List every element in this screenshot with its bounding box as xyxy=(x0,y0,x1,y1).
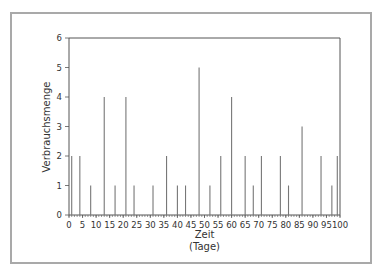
plot-axes xyxy=(69,38,340,215)
stem-chart: 0510152025303540455055606570758085909510… xyxy=(0,0,381,275)
x-tick-label: 25 xyxy=(131,220,142,230)
x-axis-unit-label: (Tage) xyxy=(189,241,220,252)
x-tick-label: 100 xyxy=(332,220,348,230)
x-tick-label: 75 xyxy=(267,220,278,230)
x-tick-label: 95 xyxy=(321,220,332,230)
x-tick-label: 40 xyxy=(172,220,183,230)
x-tick-label: 5 xyxy=(80,220,85,230)
x-tick-label: 60 xyxy=(226,220,237,230)
x-axis-label: Zeit xyxy=(195,229,215,240)
y-axis-ticks: 0123456 xyxy=(57,33,69,220)
y-tick-label: 0 xyxy=(57,210,62,220)
x-tick-label: 10 xyxy=(91,220,102,230)
y-tick-label: 1 xyxy=(57,181,62,191)
y-tick-label: 5 xyxy=(57,63,62,73)
y-tick-label: 2 xyxy=(57,151,62,161)
x-tick-label: 15 xyxy=(104,220,115,230)
y-tick-label: 3 xyxy=(57,122,62,132)
y-axis-label: Verbrauchsmenge xyxy=(41,81,52,172)
y-tick-label: 6 xyxy=(57,33,62,43)
x-tick-label: 80 xyxy=(280,220,291,230)
x-tick-label: 20 xyxy=(118,220,129,230)
y-tick-label: 4 xyxy=(57,92,62,102)
data-stems xyxy=(72,68,338,216)
x-tick-label: 90 xyxy=(307,220,318,230)
x-axis-ticks: 0510152025303540455055606570758085909510… xyxy=(66,215,348,230)
x-tick-label: 0 xyxy=(66,220,71,230)
x-tick-label: 30 xyxy=(145,220,156,230)
x-tick-label: 35 xyxy=(158,220,169,230)
x-tick-label: 85 xyxy=(294,220,305,230)
x-tick-label: 65 xyxy=(240,220,251,230)
x-tick-label: 70 xyxy=(253,220,264,230)
